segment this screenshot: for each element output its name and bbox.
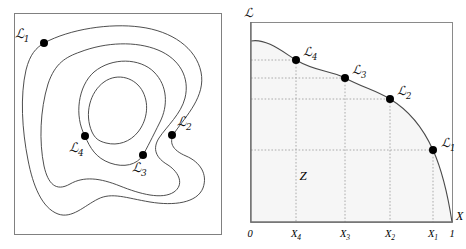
x-tick-max: 1 [449, 228, 454, 239]
y-axis-label: ℒ [244, 5, 254, 20]
frontier-point-L1 [429, 146, 437, 154]
region-label-z: Z [299, 168, 307, 183]
frontier-point-L4 [292, 56, 300, 64]
x-axis-label: X [455, 209, 464, 223]
x-tick-origin: 0 [247, 228, 253, 239]
figure-container: ℒ1 ℒ2 ℒ3 ℒ4 [0, 0, 466, 249]
frontier-point-L2 [386, 95, 394, 103]
x-tick-label-x1: X1 [427, 228, 438, 242]
x-tick-label-x2: X2 [384, 228, 395, 242]
x-tick-label-x4: X4 [290, 228, 301, 242]
x-tick-label-x3: X3 [339, 228, 350, 242]
frontier-point-L3 [341, 74, 349, 82]
frontier-plot-panel: ℒ4 ℒ3 ℒ2 ℒ1 ℒ X Z 0 X4 X3 [0, 0, 466, 249]
